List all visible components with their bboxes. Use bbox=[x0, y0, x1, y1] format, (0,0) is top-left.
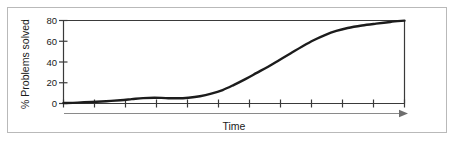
x-axis-title: Time bbox=[223, 120, 246, 132]
y-tick-label: 80 bbox=[46, 15, 57, 26]
data-series-line bbox=[64, 21, 405, 103]
plot-axes bbox=[64, 21, 405, 104]
chart-figure: % Problems solved 80 60 40 20 0 bbox=[0, 0, 461, 144]
y-tick-labels: 80 60 40 20 0 bbox=[46, 15, 57, 109]
y-tick-label: 40 bbox=[46, 57, 57, 68]
y-axis-title: % Problems solved bbox=[19, 19, 31, 109]
y-tick-label: 20 bbox=[46, 77, 57, 88]
arrow-head-icon bbox=[399, 110, 408, 117]
y-tick-label: 0 bbox=[52, 98, 57, 109]
y-tick-label: 60 bbox=[46, 36, 57, 47]
chart-canvas: % Problems solved 80 60 40 20 0 bbox=[0, 0, 461, 144]
time-arrow-axis bbox=[64, 110, 408, 117]
